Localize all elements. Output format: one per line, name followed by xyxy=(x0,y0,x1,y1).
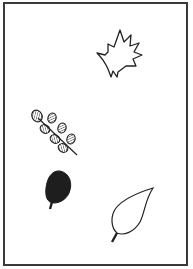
maple-leaf-icon xyxy=(97,30,142,77)
pointed-leaf-icon xyxy=(112,188,153,242)
compound-leaf-icon xyxy=(30,108,77,155)
leaves-illustration xyxy=(0,0,193,269)
oval-leaf-icon xyxy=(46,171,71,209)
